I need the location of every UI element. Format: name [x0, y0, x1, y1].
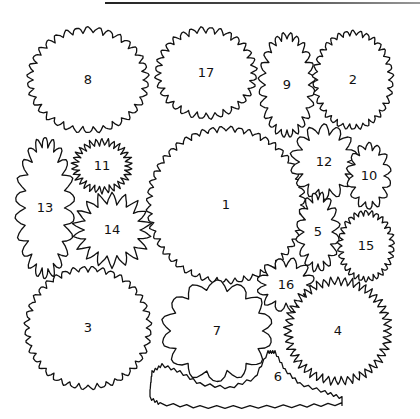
- plant-8: 8: [27, 27, 149, 133]
- plant-16-label: 16: [278, 277, 295, 292]
- planting-plan: 6 817921311141121051516374: [0, 0, 420, 419]
- plant-8-label: 8: [84, 72, 92, 87]
- plant-2-label: 2: [349, 72, 357, 87]
- plant-15-label: 15: [358, 238, 375, 253]
- plant-7-label: 7: [213, 323, 221, 338]
- plant-3: 3: [24, 267, 152, 390]
- plant-group: 817921311141121051516374: [15, 27, 394, 390]
- plant-2: 2: [312, 30, 393, 129]
- plant-10-label: 10: [361, 168, 378, 183]
- plant-7: 7: [162, 280, 272, 382]
- plant-14: 14: [72, 192, 151, 268]
- plant-12-label: 12: [316, 154, 333, 169]
- plant-9-label: 9: [283, 77, 291, 92]
- plant-9: 9: [258, 33, 316, 137]
- plant-17-label: 17: [198, 65, 215, 80]
- plant-15: 15: [337, 211, 394, 282]
- plant-1-label: 1: [222, 197, 230, 212]
- plant-5-label: 5: [314, 224, 322, 239]
- plant-14-label: 14: [104, 222, 121, 237]
- plant-11-label: 11: [94, 158, 111, 173]
- plant-11: 11: [71, 139, 132, 194]
- plant-13: 13: [15, 138, 74, 279]
- plant-4-label: 4: [334, 323, 342, 338]
- plant-6-label: 6: [274, 369, 282, 384]
- plant-3-label: 3: [84, 320, 92, 335]
- plant-17: 17: [155, 27, 258, 120]
- plant-13-label: 13: [37, 200, 54, 215]
